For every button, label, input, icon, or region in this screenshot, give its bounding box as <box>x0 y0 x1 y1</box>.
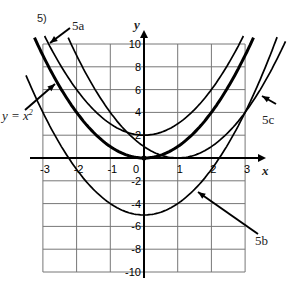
svg-text:-10: -10 <box>125 266 141 278</box>
label-5c: 5c <box>262 112 274 128</box>
svg-text:8: 8 <box>135 61 141 73</box>
svg-text:0: 0 <box>133 163 139 175</box>
label-parent: y = x2 <box>2 108 33 124</box>
y-axis-label: y <box>134 17 140 33</box>
label-5a: 5a <box>72 18 84 34</box>
svg-text:6: 6 <box>135 84 141 96</box>
svg-text:-4: -4 <box>131 198 141 210</box>
svg-text:-2: -2 <box>131 175 141 187</box>
svg-text:-8: -8 <box>131 243 141 255</box>
graph: -3-2-10123-10-8-6-4-2246810 <box>0 0 288 287</box>
problem-number: 5) <box>37 12 47 24</box>
svg-text:4: 4 <box>135 106 141 118</box>
label-5b: 5b <box>255 233 268 249</box>
svg-text:-6: -6 <box>131 220 141 232</box>
svg-text:1: 1 <box>177 163 183 175</box>
svg-text:10: 10 <box>129 38 141 50</box>
x-axis-label: x <box>262 163 269 179</box>
svg-text:-3: -3 <box>40 163 50 175</box>
svg-text:-1: -1 <box>107 163 117 175</box>
svg-text:3: 3 <box>244 163 250 175</box>
